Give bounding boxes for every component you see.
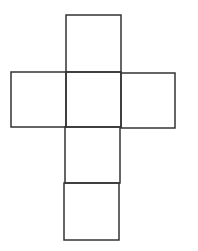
cube-net-diagram xyxy=(0,0,198,251)
lower-face-square xyxy=(65,127,120,183)
top-face-square xyxy=(66,15,121,72)
right-face-square xyxy=(121,73,175,128)
bottom-face-square xyxy=(64,183,119,240)
center-face-square xyxy=(66,72,121,127)
cube-net-squares xyxy=(11,15,175,240)
left-face-square xyxy=(11,72,66,127)
